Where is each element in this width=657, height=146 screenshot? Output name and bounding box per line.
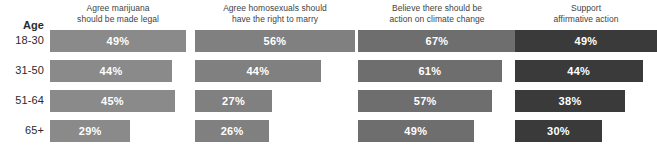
bar-value-affirmative-action-18-30: 49%	[575, 36, 598, 47]
bar-affirmative-action-18-30: 49%	[515, 30, 657, 52]
column-header-marijuana-line1: Agree marijuana	[50, 3, 186, 14]
bar-marijuana-18-30: 49%	[50, 30, 186, 52]
age-axis-title: Age	[0, 19, 44, 32]
bar-value-affirmative-action-51-64: 38%	[559, 96, 582, 107]
bar-value-climate-18-30: 67%	[426, 36, 449, 47]
column-header-affirmative-action: Support affirmative action	[515, 3, 657, 24]
bar-climate-31-50: 61%	[358, 60, 502, 82]
bar-value-marriage-65-plus: 26%	[221, 126, 244, 137]
bar-value-affirmative-action-31-50: 44%	[567, 66, 590, 77]
bar-marijuana-51-64: 45%	[50, 90, 175, 112]
bar-value-marriage-31-50: 44%	[246, 66, 269, 77]
bar-value-marijuana-31-50: 44%	[100, 66, 123, 77]
column-header-climate: Believe there should be action on climat…	[358, 3, 516, 24]
grouped-bar-chart: Agree marijuana should be made legal Agr…	[0, 0, 657, 146]
age-label-51-64: 51-64	[0, 94, 44, 107]
column-header-affirmative-action-line1: Support	[515, 3, 657, 14]
column-header-marriage-line1: Agree homosexuals should	[195, 3, 355, 14]
bar-value-affirmative-action-65-plus: 30%	[547, 126, 570, 137]
bar-climate-18-30: 67%	[358, 30, 516, 52]
age-label-31-50: 31-50	[0, 64, 44, 77]
bar-value-climate-51-64: 57%	[414, 96, 437, 107]
bar-value-marijuana-18-30: 49%	[107, 36, 130, 47]
bar-affirmative-action-31-50: 44%	[515, 60, 643, 82]
column-header-marriage: Agree homosexuals should have the right …	[195, 3, 355, 24]
bar-climate-65-plus: 49%	[358, 120, 474, 142]
column-header-marijuana: Agree marijuana should be made legal	[50, 3, 186, 24]
bar-marijuana-65-plus: 29%	[50, 120, 130, 142]
column-header-affirmative-action-line2: affirmative action	[515, 14, 657, 25]
bar-value-marriage-18-30: 56%	[264, 36, 287, 47]
bar-value-marijuana-65-plus: 29%	[79, 126, 102, 137]
bar-affirmative-action-51-64: 38%	[515, 90, 625, 112]
column-header-marriage-line2: have the right to marry	[195, 14, 355, 25]
age-label-18-30: 18-30	[0, 34, 44, 47]
bar-marijuana-31-50: 44%	[50, 60, 172, 82]
bar-climate-51-64: 57%	[358, 90, 492, 112]
bar-value-climate-31-50: 61%	[418, 66, 441, 77]
bar-value-marriage-51-64: 27%	[222, 96, 245, 107]
column-header-climate-line2: action on climate change	[358, 14, 516, 25]
bar-value-marijuana-51-64: 45%	[101, 96, 124, 107]
age-label-65-plus: 65+	[0, 124, 44, 137]
bar-marriage-51-64: 27%	[195, 90, 272, 112]
column-header-marijuana-line2: should be made legal	[50, 14, 186, 25]
bar-marriage-65-plus: 26%	[195, 120, 269, 142]
bar-marriage-18-30: 56%	[195, 30, 355, 52]
bar-marriage-31-50: 44%	[195, 60, 321, 82]
chart-column-headers: Agree marijuana should be made legal Agr…	[0, 0, 657, 26]
bar-value-climate-65-plus: 49%	[404, 126, 427, 137]
column-header-climate-line1: Believe there should be	[358, 3, 516, 14]
bar-affirmative-action-65-plus: 30%	[515, 120, 602, 142]
